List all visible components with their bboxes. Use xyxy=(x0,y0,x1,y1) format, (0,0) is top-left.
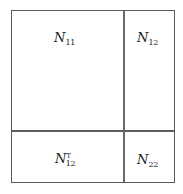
block-base: N xyxy=(137,152,148,167)
block-subscript: 22 xyxy=(148,160,158,169)
vertical-partition-line xyxy=(123,11,125,182)
block-base: N xyxy=(137,30,148,45)
block-subscript: 11 xyxy=(65,38,75,47)
block-n11-label: N11 xyxy=(54,31,75,44)
block-subscript: 12 xyxy=(148,38,158,47)
block-base: N xyxy=(54,30,65,45)
horizontal-partition-line xyxy=(12,130,174,132)
block-subscript: 12 xyxy=(66,159,76,168)
block-matrix: N11 N12 NT12 N22 xyxy=(11,10,175,183)
block-n12-transpose-label: NT12 xyxy=(55,152,75,165)
block-n22-label: N22 xyxy=(137,153,158,166)
block-n12-label: N12 xyxy=(137,31,158,44)
block-base: N xyxy=(55,151,66,166)
